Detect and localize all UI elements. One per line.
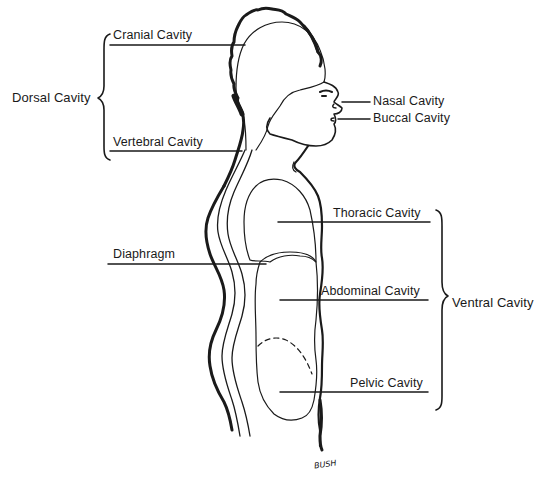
cranial-cavity-outline (236, 22, 325, 150)
label-diaphragm: Diaphragm (113, 247, 175, 261)
label-dorsal-cavity: Dorsal Cavity (12, 91, 91, 105)
ventral-brace (436, 210, 448, 410)
label-nasal-cavity: Nasal Cavity (373, 94, 444, 108)
head-hair-outline (224, 8, 318, 186)
label-abdominal-cavity: Abdominal Cavity (321, 284, 420, 298)
label-pelvic-cavity: Pelvic Cavity (350, 376, 423, 390)
front-lower-outline (320, 400, 322, 450)
mouth-mark (331, 118, 334, 121)
label-thoracic-cavity: Thoracic Cavity (333, 206, 421, 220)
body-cavities-diagram (0, 0, 552, 485)
eye-mark (320, 91, 332, 97)
pelvic-boundary-dashed (258, 338, 312, 374)
dorsal-brace (98, 34, 110, 160)
label-buccal-cavity: Buccal Cavity (373, 111, 450, 125)
neck-front-outline (294, 146, 323, 446)
label-cranial-cavity: Cranial Cavity (113, 28, 192, 42)
thoracic-cavity-outline (244, 179, 316, 262)
label-vertebral-cavity: Vertebral Cavity (113, 135, 203, 149)
spinal-canal-inner (227, 150, 252, 436)
back-outline (206, 186, 232, 430)
label-ventral-cavity: Ventral Cavity (452, 296, 534, 310)
nostril-mark (333, 104, 336, 108)
abdominal-cavity-outline (255, 252, 317, 420)
